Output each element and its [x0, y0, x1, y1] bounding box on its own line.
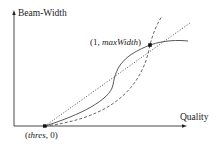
- x-axis-label: Quality: [180, 112, 209, 122]
- x-axis-arrow-icon: [182, 124, 187, 127]
- y-axis-arrow-icon: [12, 10, 15, 15]
- end-point: [148, 43, 152, 47]
- sigmoid-curve: [45, 40, 188, 126]
- start-point: [43, 124, 47, 127]
- beam-width-quality-diagram: Beam-Width Quality (thres, 0) (1, maxWid…: [0, 0, 218, 146]
- y-axis: Beam-Width: [12, 8, 67, 126]
- end-point-label: (1, maxWidth): [90, 37, 141, 47]
- start-point-label: (thres, 0): [25, 130, 58, 140]
- y-axis-label: Beam-Width: [18, 8, 67, 18]
- convex-curve: [45, 16, 162, 126]
